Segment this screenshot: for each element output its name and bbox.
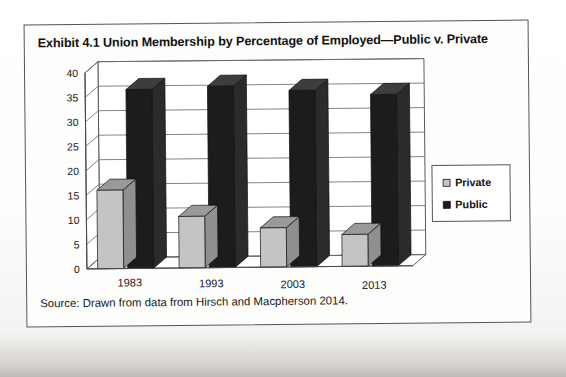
bar-private-1983: [97, 179, 137, 269]
chart-legend[interactable]: PrivatePublic: [432, 165, 511, 222]
x-axis-label-1983: 1983: [117, 276, 142, 288]
chart-plot-area: 0510152025303540 1983199320032013 Privat…: [33, 57, 525, 294]
y-axis-tick-label: 40: [66, 67, 78, 79]
x-axis-label-1993: 1993: [199, 277, 224, 289]
x-axis-label-2003: 2003: [281, 278, 306, 290]
y-axis-tick-label: 30: [67, 116, 79, 128]
y-axis-tick-label: 0: [74, 263, 80, 275]
y-axis-tick-label: 15: [67, 189, 79, 201]
legend-label-private[interactable]: Private: [455, 176, 491, 188]
y-axis-tick-label: 35: [67, 91, 79, 103]
y-axis-tick-label: 10: [68, 214, 80, 226]
bar-private-2003: [260, 217, 299, 268]
bar-chart: 0510152025303540 1983199320032013 Privat…: [33, 57, 525, 294]
y-axis-tick-label: 25: [67, 140, 79, 152]
x-axis-label-2013: 2013: [362, 279, 387, 291]
source-note: Source: Drawn from data from Hirsch and …: [40, 294, 348, 309]
y-axis-tick-label: 20: [67, 165, 79, 177]
bar-private-1993: [179, 205, 219, 268]
legend-swatch-public: [443, 201, 450, 208]
y-axis-tick-label: 5: [74, 238, 80, 250]
x-axis-category-labels: 1983199320032013: [117, 274, 386, 293]
bar-private-2013: [342, 223, 381, 266]
legend-swatch-private: [443, 179, 450, 186]
y-axis-tick-labels: 0510152025303540: [66, 67, 80, 275]
exhibit-title: Exhibit 4.1 Union Membership by Percenta…: [38, 32, 518, 51]
legend-label-public[interactable]: Public: [455, 198, 488, 210]
exhibit-box: Exhibit 4.1 Union Membership by Percenta…: [24, 20, 532, 328]
legend-box: [432, 165, 511, 222]
